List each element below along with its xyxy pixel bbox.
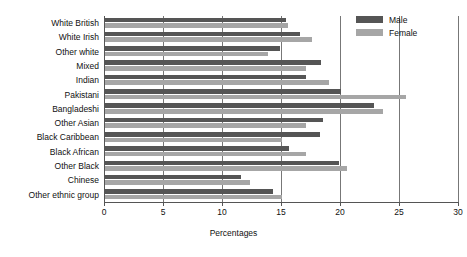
x-tick xyxy=(104,202,105,206)
x-tick-label: 0 xyxy=(102,207,107,217)
bar-male xyxy=(105,32,300,37)
bar-group: Other ethnic group xyxy=(0,188,467,202)
category-label: Chinese xyxy=(0,173,99,187)
bar-chart: White BritishWhite IrishOther whiteMixed… xyxy=(0,0,467,257)
x-tick xyxy=(399,202,400,206)
x-tick xyxy=(222,202,223,206)
category-label: Other Asian xyxy=(0,116,99,130)
bar-male xyxy=(105,118,323,123)
bar-group: Indian xyxy=(0,73,467,87)
legend-label-female: Female xyxy=(389,28,417,38)
x-tick-label: 10 xyxy=(217,207,226,217)
x-tick xyxy=(163,202,164,206)
bar-group: Black African xyxy=(0,145,467,159)
bar-group: Other Black xyxy=(0,159,467,173)
bar-female xyxy=(105,152,306,157)
bar-female xyxy=(105,123,306,128)
category-label: Pakistani xyxy=(0,88,99,102)
bar-male xyxy=(105,175,241,180)
legend-item-male: Male xyxy=(356,14,417,25)
category-label: White Irish xyxy=(0,30,99,44)
bar-female xyxy=(105,180,250,185)
bar-female xyxy=(105,95,406,100)
category-label: Other ethnic group xyxy=(0,188,99,202)
x-tick-label: 25 xyxy=(394,207,403,217)
bar-male xyxy=(105,89,341,94)
bar-male xyxy=(105,60,321,65)
x-tick-label: 5 xyxy=(161,207,166,217)
bar-group: Black Caribbean xyxy=(0,130,467,144)
chart-legend: Male Female xyxy=(356,14,417,40)
bar-female xyxy=(105,80,329,85)
bar-female xyxy=(105,138,282,143)
x-tick xyxy=(458,202,459,206)
x-tick-label: 20 xyxy=(335,207,344,217)
bar-male xyxy=(105,146,289,151)
bar-group: Other Asian xyxy=(0,116,467,130)
legend-swatch-female-icon xyxy=(356,29,383,36)
category-label: Mixed xyxy=(0,59,99,73)
category-label: Other Black xyxy=(0,159,99,173)
x-tick-label: 15 xyxy=(276,207,285,217)
bar-female xyxy=(105,109,383,114)
bar-male xyxy=(105,46,280,51)
bar-female xyxy=(105,195,282,200)
legend-item-female: Female xyxy=(356,27,417,38)
bar-group: Chinese xyxy=(0,173,467,187)
bar-male xyxy=(105,132,320,137)
legend-swatch-male-icon xyxy=(356,16,383,23)
category-label: Indian xyxy=(0,73,99,87)
category-label: Black African xyxy=(0,145,99,159)
bar-male xyxy=(105,18,286,23)
category-label: Bangladeshi xyxy=(0,102,99,116)
bar-group: Pakistani xyxy=(0,88,467,102)
bar-female xyxy=(105,166,347,171)
bar-female xyxy=(105,52,268,57)
bar-group: Other white xyxy=(0,45,467,59)
x-tick xyxy=(281,202,282,206)
bar-female xyxy=(105,66,306,71)
bar-male xyxy=(105,189,273,194)
bar-male xyxy=(105,161,339,166)
x-tick-label: 30 xyxy=(453,207,462,217)
legend-label-male: Male xyxy=(389,15,407,25)
bar-male xyxy=(105,75,306,80)
bar-female xyxy=(105,37,312,42)
category-label: White British xyxy=(0,16,99,30)
bar-group: Bangladeshi xyxy=(0,102,467,116)
x-axis-label: Percentages xyxy=(0,228,467,238)
bar-group: Mixed xyxy=(0,59,467,73)
category-label: Black Caribbean xyxy=(0,130,99,144)
bar-male xyxy=(105,103,374,108)
category-label: Other white xyxy=(0,45,99,59)
x-tick xyxy=(340,202,341,206)
bar-female xyxy=(105,23,288,28)
